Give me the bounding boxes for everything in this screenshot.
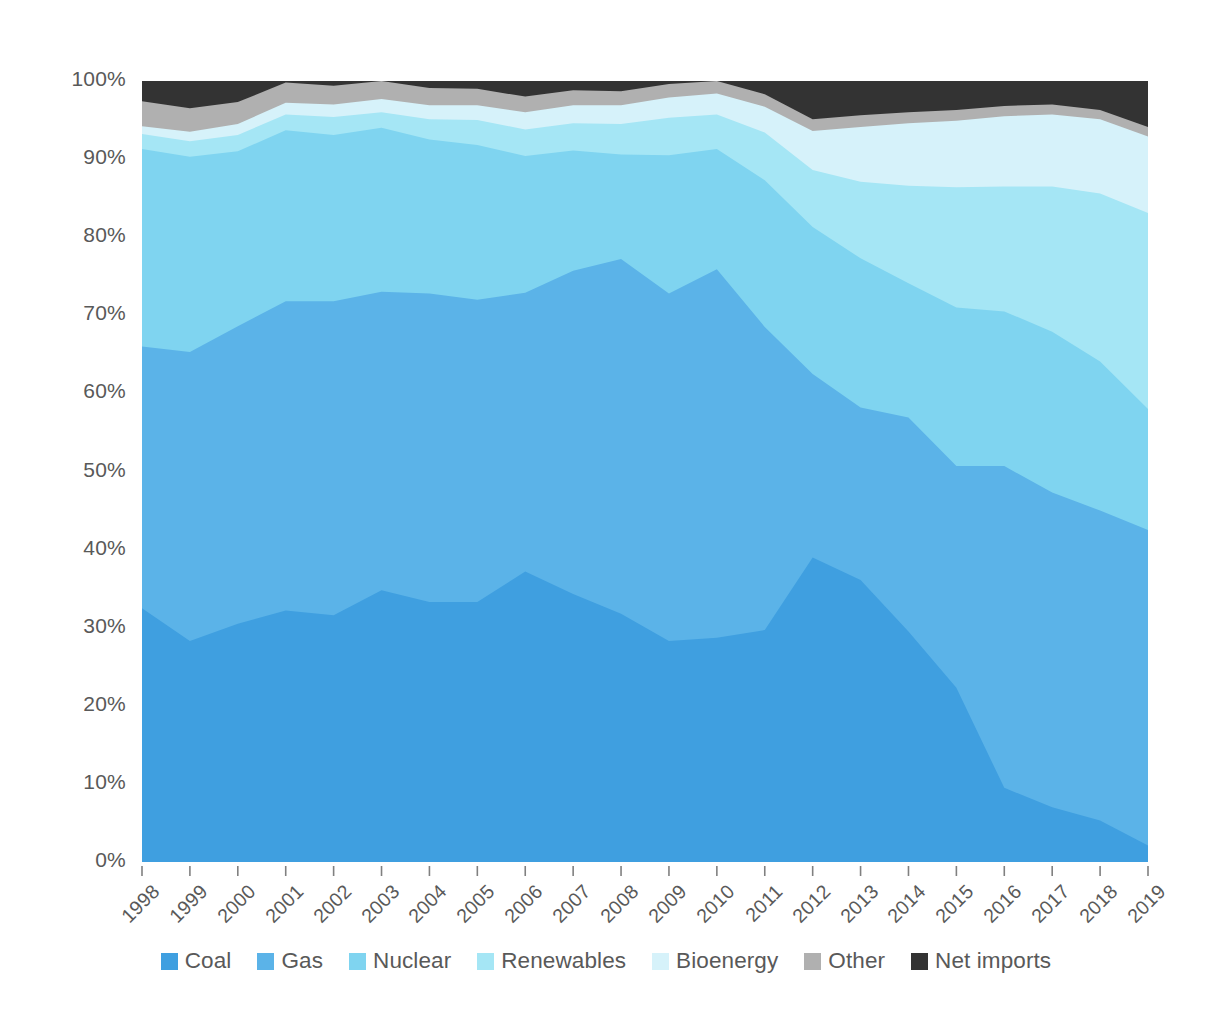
chart-legend: CoalGasNuclearRenewablesBioenergyOtherNe…: [0, 948, 1212, 974]
y-axis-tick-label: 0%: [36, 848, 126, 872]
axis-group: [142, 866, 1148, 876]
legend-item-label: Gas: [281, 948, 323, 974]
legend-item-coal[interactable]: Coal: [161, 948, 232, 974]
stacked-area-chart: 0%10%20%30%40%50%60%70%80%90%100% 199819…: [0, 0, 1212, 1032]
y-axis-tick-label: 20%: [36, 692, 126, 716]
legend-swatch-icon: [911, 953, 928, 970]
y-axis-tick-label: 40%: [36, 536, 126, 560]
legend-item-net-imports[interactable]: Net imports: [911, 948, 1051, 974]
y-axis-tick-label: 30%: [36, 614, 126, 638]
legend-item-bioenergy[interactable]: Bioenergy: [652, 948, 778, 974]
area-series-group: [142, 81, 1148, 862]
legend-swatch-icon: [477, 953, 494, 970]
legend-swatch-icon: [804, 953, 821, 970]
legend-item-label: Nuclear: [373, 948, 451, 974]
legend-item-label: Other: [828, 948, 885, 974]
legend-swatch-icon: [161, 953, 178, 970]
legend-item-other[interactable]: Other: [804, 948, 885, 974]
legend-item-label: Renewables: [501, 948, 626, 974]
legend-item-nuclear[interactable]: Nuclear: [349, 948, 451, 974]
chart-plot-area: [0, 0, 1212, 1032]
y-axis-tick-label: 50%: [36, 458, 126, 482]
y-axis-tick-label: 70%: [36, 301, 126, 325]
legend-item-renewables[interactable]: Renewables: [477, 948, 626, 974]
y-axis-tick-label: 90%: [36, 145, 126, 169]
legend-item-label: Bioenergy: [676, 948, 778, 974]
legend-item-label: Coal: [185, 948, 232, 974]
y-axis-tick-label: 100%: [36, 67, 126, 91]
y-axis-tick-label: 60%: [36, 379, 126, 403]
legend-swatch-icon: [349, 953, 366, 970]
legend-swatch-icon: [257, 953, 274, 970]
y-axis-tick-label: 10%: [36, 770, 126, 794]
legend-swatch-icon: [652, 953, 669, 970]
legend-item-label: Net imports: [935, 948, 1051, 974]
y-axis-tick-label: 80%: [36, 223, 126, 247]
legend-item-gas[interactable]: Gas: [257, 948, 323, 974]
